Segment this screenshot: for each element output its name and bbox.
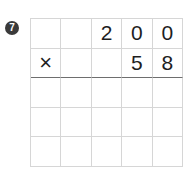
cell-r2-c2[interactable] [61,49,91,79]
cell-r1-c1[interactable] [31,19,61,49]
answer-cell-r3-c2[interactable] [61,78,91,108]
problem-number-badge: 7 [5,21,19,35]
answer-cell-r4-c2[interactable] [61,108,91,138]
answer-cell-r5-c5[interactable] [153,137,183,167]
answer-cell-r3-c1[interactable] [31,78,61,108]
answer-cell-r5-c2[interactable] [61,137,91,167]
answer-cell-r5-c4[interactable] [122,137,152,167]
answer-cell-r4-c4[interactable] [122,108,152,138]
multiplication-grid: 2 0 0 × 5 8 [30,18,183,167]
cell-r1-c4: 0 [122,19,152,49]
answer-cell-r4-c1[interactable] [31,108,61,138]
cell-r1-c3: 2 [92,19,122,49]
answer-cell-r4-c5[interactable] [153,108,183,138]
cell-r1-c5: 0 [153,19,183,49]
answer-cell-r3-c5[interactable] [153,78,183,108]
cell-r2-c4: 5 [122,49,152,79]
answer-cell-r5-c3[interactable] [92,137,122,167]
cell-r2-c3[interactable] [92,49,122,79]
answer-cell-r4-c3[interactable] [92,108,122,138]
answer-cell-r5-c1[interactable] [31,137,61,167]
answer-cell-r3-c4[interactable] [122,78,152,108]
cell-r2-c5: 8 [153,49,183,79]
multiply-operator: × [31,49,61,79]
answer-cell-r3-c3[interactable] [92,78,122,108]
cell-r1-c2[interactable] [61,19,91,49]
